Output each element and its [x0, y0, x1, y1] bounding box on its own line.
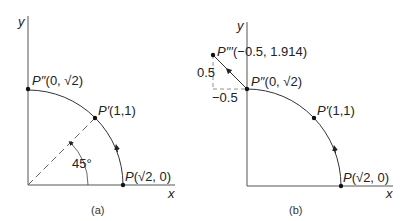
caption-b: (b) [289, 204, 302, 216]
dim-vertical-label: 0.5 [197, 65, 215, 80]
panel-a: y x 45° P(√2, 0) P′(1,1) P′′(0, √2) (a) [17, 14, 175, 216]
svg-text:P′(1,1): P′(1,1) [317, 103, 355, 118]
svg-text:P(√2, 0): P(√2, 0) [125, 169, 171, 184]
point-p-prime [93, 116, 97, 120]
point-p-prime [312, 116, 316, 120]
svg-text:P′′(0, √2): P′′(0, √2) [32, 73, 83, 88]
angle-label: 45° [72, 156, 92, 171]
radius-line [28, 118, 95, 185]
point-p-double-prime [26, 87, 30, 91]
y-axis-label: y [236, 18, 245, 33]
angle-arrow-icon [70, 143, 73, 145]
svg-text:P(√2, 0): P(√2, 0) [343, 170, 389, 185]
point-p-triple-prime [211, 53, 215, 57]
point-p-double-prime [245, 87, 249, 91]
dim-horizontal-label: −0.5 [212, 90, 238, 105]
caption-a: (a) [91, 204, 104, 216]
x-axis-label: x [167, 186, 175, 201]
svg-text:P′(1,1): P′(1,1) [98, 103, 136, 118]
y-axis-label: y [17, 14, 26, 29]
rotation-diagram: y x 45° P(√2, 0) P′(1,1) P′′(0, √2) (a) … [0, 0, 415, 221]
svg-text:P′′(0, √2): P′′(0, √2) [251, 74, 302, 89]
x-axis-label: x [385, 186, 393, 201]
svg-text:P′′′(−0.5, 1.914): P′′′(−0.5, 1.914) [217, 44, 307, 59]
translation-arrow-icon [228, 70, 232, 74]
panel-b: y x 0.5 −0.5 P(√2, 0) P′(1,1) P′′(0, √2)… [197, 18, 393, 216]
diagram: y x 45° P(√2, 0) P′(1,1) P′′(0, √2) (a) … [0, 0, 415, 221]
